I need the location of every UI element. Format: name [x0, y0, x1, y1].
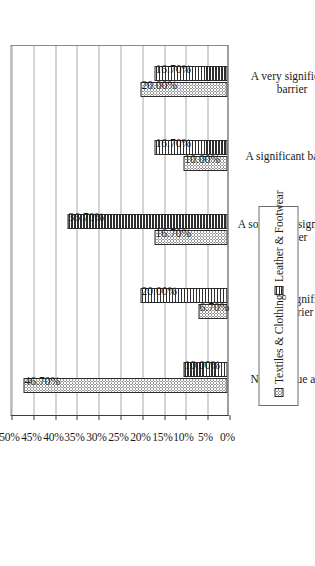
axis-tick — [55, 415, 56, 420]
bar-data-label: 16.70% — [155, 63, 190, 75]
axis-tick — [229, 415, 230, 420]
bar-data-label: 10.00% — [184, 359, 219, 371]
chart-figure: 0%5%10%15%20%25%30%35%40%45%50% Not an i… — [0, 0, 315, 566]
chart-legend: Textiles & Clothing Leather & Footwear — [258, 206, 298, 406]
gridline — [76, 46, 77, 415]
bar-data-label: 20.00% — [141, 285, 176, 297]
stripes-swatch-icon — [274, 286, 283, 295]
axis-tick — [207, 415, 208, 420]
value-axis-label: 50% — [0, 431, 31, 443]
legend-label-leather-footwear: Leather & Footwear — [272, 191, 284, 282]
legend-label-textiles-clothing: Textiles & Clothing — [272, 295, 284, 384]
axis-tick — [164, 415, 165, 420]
category-label: A very significant barrier — [236, 70, 315, 95]
axis-tick — [98, 415, 99, 420]
category-label: A significant barrier — [236, 150, 315, 163]
axis-tick — [76, 415, 77, 420]
chart-rotor: 0%5%10%15%20%25%30%35%40%45%50% Not an i… — [0, 0, 315, 566]
gridline — [98, 46, 99, 415]
bar-data-label: 16.70% — [155, 137, 190, 149]
gridline — [55, 46, 56, 415]
gridline — [11, 46, 12, 415]
axis-tick — [142, 415, 143, 420]
axis-tick — [120, 415, 121, 420]
gridline — [33, 46, 34, 415]
bar-data-label: 36.70% — [68, 211, 103, 223]
axis-tick — [185, 415, 186, 420]
bar-data-label: 46.70% — [24, 375, 59, 387]
axis-tick — [33, 415, 34, 420]
legend-entry-textiles-clothing[interactable]: Textiles & Clothing — [272, 295, 284, 397]
gridline — [120, 46, 121, 415]
bar-data-label: 6.70% — [199, 301, 229, 313]
bar-data-label: 10.00% — [184, 153, 219, 165]
plot-wrapper: 0%5%10%15%20%25%30%35%40%45%50% Not an i… — [0, 0, 315, 566]
bar-data-label: 20.00% — [141, 79, 176, 91]
legend-entry-leather-footwear[interactable]: Leather & Footwear — [272, 191, 284, 295]
gridline — [142, 46, 143, 415]
axis-tick — [11, 415, 12, 420]
bar-data-label: 16.70% — [155, 227, 190, 239]
dots-swatch-icon — [274, 388, 283, 397]
